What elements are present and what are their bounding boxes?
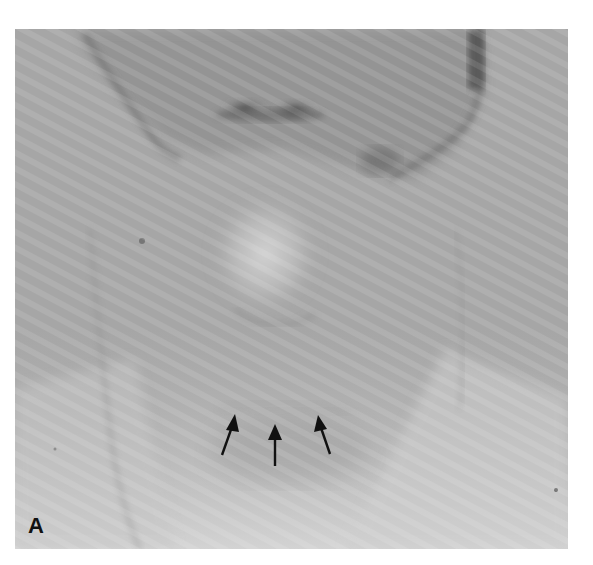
- panel-label: A: [28, 515, 44, 537]
- clinical-photo-figure: A: [15, 29, 568, 549]
- neck-photograph: [15, 29, 568, 549]
